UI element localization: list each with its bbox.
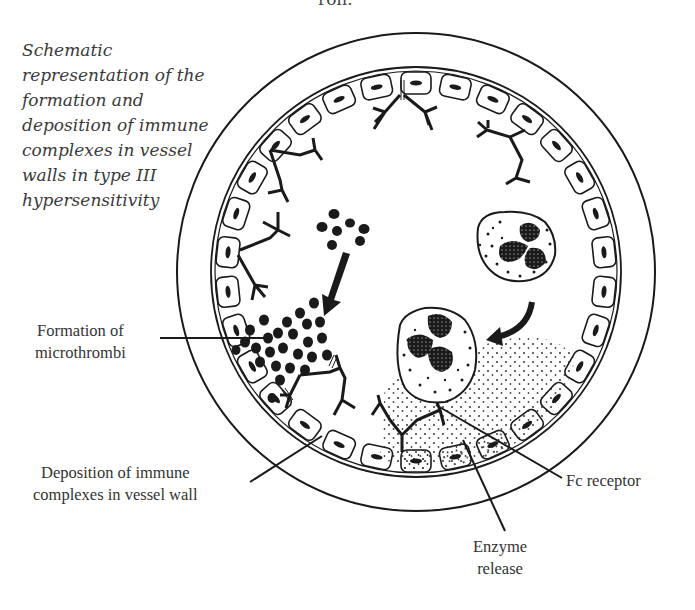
platelet-aggregation-arrow bbox=[322, 252, 350, 316]
neutrophil-lower bbox=[397, 308, 476, 403]
platelets bbox=[317, 209, 370, 250]
label-line: complexes in vessel wall bbox=[33, 484, 198, 506]
label-line: microthrombi bbox=[35, 342, 126, 364]
label-microthrombi: Formation of microthrombi bbox=[35, 320, 126, 364]
label-enzyme-release: Enzyme release bbox=[473, 536, 527, 580]
label-line: Deposition of immune bbox=[33, 462, 198, 484]
vessel-cross-section-diagram bbox=[0, 0, 695, 610]
label-line: release bbox=[473, 558, 527, 580]
label-line: Fc receptor bbox=[566, 470, 641, 492]
label-line: Formation of bbox=[35, 320, 126, 342]
deposition-leader bbox=[250, 436, 322, 482]
label-fc-receptor: Fc receptor bbox=[566, 470, 641, 492]
label-line: Enzyme bbox=[473, 536, 527, 558]
label-deposition: Deposition of immune complexes in vessel… bbox=[33, 462, 198, 506]
neutrophil-upper bbox=[478, 212, 556, 282]
